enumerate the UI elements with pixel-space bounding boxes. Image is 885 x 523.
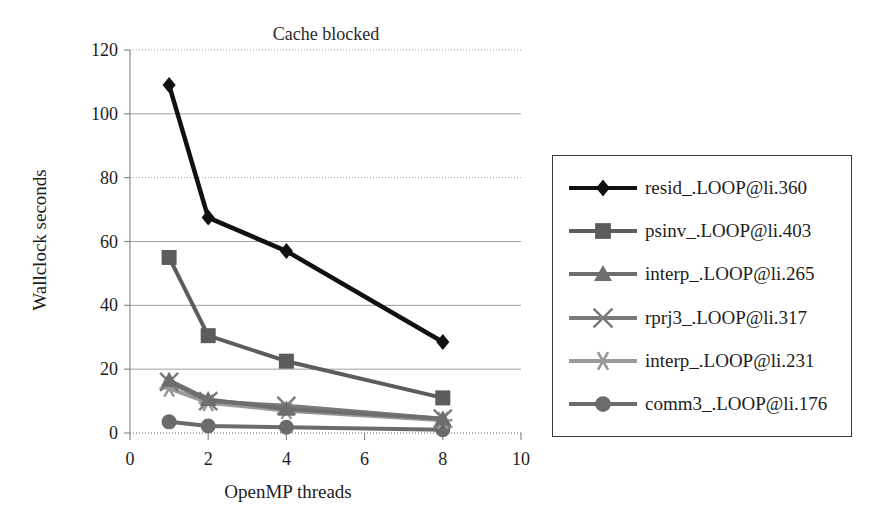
gridlines: [130, 50, 521, 433]
y-tick-label: 100: [91, 104, 118, 124]
x-tick-label: 4: [282, 449, 291, 469]
x-tick-labels: 0246810: [126, 449, 531, 469]
data-point-marker-square: [595, 223, 611, 239]
x-tick-label: 2: [204, 449, 213, 469]
tick-marks: [124, 50, 521, 440]
legend-label-0: resid_.LOOP@li.360: [639, 177, 807, 199]
series-line: [169, 257, 443, 397]
legend-label-3: rprj3_.LOOP@li.317: [639, 307, 807, 329]
legend-key-x-icon: [567, 305, 639, 331]
data-point-marker-diamond: [280, 243, 293, 259]
data-point-marker-circle: [595, 396, 611, 412]
chart-title: Cache blocked: [273, 24, 379, 44]
y-tick-label: 60: [100, 232, 118, 252]
data-point-marker-circle: [279, 420, 294, 435]
y-tick-label: 20: [100, 359, 118, 379]
data-point-marker-diamond: [163, 77, 176, 93]
data-point-marker-square: [279, 354, 294, 369]
legend-item-1[interactable]: psinv_.LOOP@li.403: [553, 210, 851, 252]
legend-key-triangle-icon: [567, 261, 639, 287]
legend-item-5[interactable]: comm3_.LOOP@li.176: [553, 383, 851, 425]
legend-label-5: comm3_.LOOP@li.176: [639, 393, 827, 415]
x-axis-title: OpenMP threads: [224, 481, 352, 502]
legend-item-2[interactable]: interp_.LOOP@li.265: [553, 253, 851, 295]
data-point-marker-diamond: [202, 210, 215, 226]
legend-label-1: psinv_.LOOP@li.403: [639, 220, 811, 242]
y-tick-label: 0: [109, 423, 118, 443]
data-point-marker-asterisk: [593, 352, 613, 369]
data-point-marker-circle: [162, 414, 177, 429]
x-tick-label: 0: [126, 449, 135, 469]
x-tick-label: 10: [512, 449, 530, 469]
legend-key-square-icon: [567, 218, 639, 244]
legend-label-2: interp_.LOOP@li.265: [639, 263, 815, 285]
data-point-marker-diamond: [596, 179, 610, 196]
data-point-marker-square: [162, 250, 177, 265]
legend-label-4: interp_.LOOP@li.231: [639, 350, 815, 372]
chart-legend: resid_.LOOP@li.360psinv_.LOOP@li.403inte…: [552, 155, 852, 437]
x-tick-label: 6: [360, 449, 369, 469]
y-tick-label: 80: [100, 168, 118, 188]
legend-item-0[interactable]: resid_.LOOP@li.360: [553, 167, 851, 209]
legend-key-circle-icon: [567, 391, 639, 417]
data-series-layer: [160, 77, 453, 437]
data-point-marker-square: [435, 390, 450, 405]
chart-figure: 020406080100120 0246810 Cache blocked Op…: [0, 0, 885, 523]
legend-key-asterisk-icon: [567, 348, 639, 374]
y-tick-label: 40: [100, 295, 118, 315]
data-point-marker-circle: [201, 418, 216, 433]
x-tick-label: 8: [438, 449, 447, 469]
data-point-marker-square: [201, 328, 216, 343]
y-axis-title: Wallclock seconds: [29, 169, 50, 310]
legend-item-4[interactable]: interp_.LOOP@li.231: [553, 340, 851, 382]
y-tick-labels: 020406080100120: [91, 40, 118, 443]
legend-key-diamond-icon: [567, 175, 639, 201]
legend-item-3[interactable]: rprj3_.LOOP@li.317: [553, 297, 851, 339]
y-tick-label: 120: [91, 40, 118, 60]
data-point-marker-triangle: [161, 372, 178, 387]
data-point-marker-diamond: [436, 334, 449, 350]
